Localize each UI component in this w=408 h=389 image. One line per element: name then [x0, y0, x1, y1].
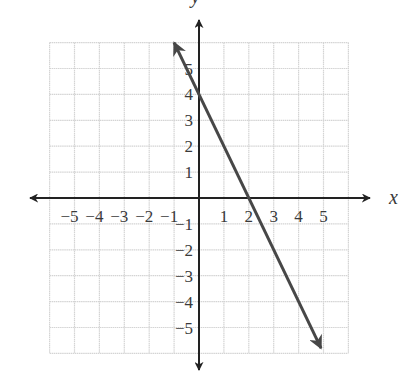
x-tick-label: −4: [85, 207, 104, 226]
x-tick-label: 1: [220, 207, 229, 226]
y-tick-label: 2: [185, 137, 194, 156]
y-tick-label: 3: [185, 111, 194, 130]
y-tick-label: −1: [175, 215, 193, 234]
axes: [30, 20, 370, 370]
y-tick-label: −2: [175, 241, 193, 260]
x-axis-label: x: [388, 186, 398, 208]
coordinate-plane: −5−4−3−2−112345−5−4−3−2−112345 x y: [0, 0, 408, 389]
line-series: [174, 43, 321, 349]
y-tick-label: −5: [175, 319, 193, 338]
data-series: [174, 43, 321, 349]
y-tick-label: 4: [185, 85, 194, 104]
x-tick-label: 3: [269, 207, 278, 226]
x-tick-label: −3: [110, 207, 128, 226]
y-tick-label: 1: [185, 163, 194, 182]
y-axis-label: y: [189, 0, 200, 8]
x-tick-label: 2: [245, 207, 254, 226]
x-tick-label: −5: [60, 207, 78, 226]
x-tick-label: 5: [319, 207, 328, 226]
x-tick-label: 4: [294, 207, 303, 226]
x-tick-label: −2: [135, 207, 153, 226]
y-tick-label: −3: [175, 267, 193, 286]
y-tick-label: −4: [175, 293, 194, 312]
